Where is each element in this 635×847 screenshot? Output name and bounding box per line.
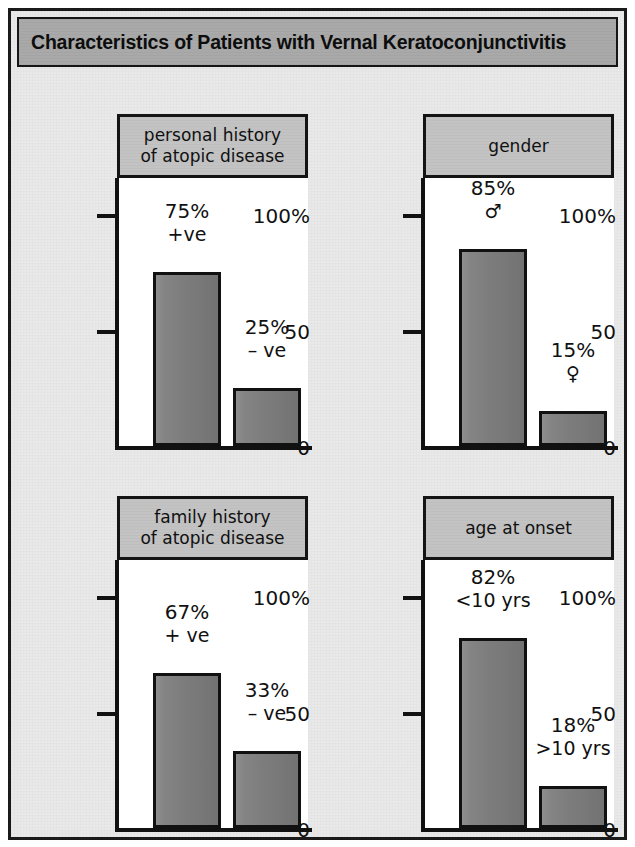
bar-value-label: 18% xyxy=(551,713,595,737)
chart-panel-age-at-onset: 100% 50 0 82% <10 yrs 18% >10 yrs xyxy=(317,455,623,837)
bar-category-label: – ve xyxy=(219,339,315,361)
bar-value-label: 15% xyxy=(551,338,595,362)
panel-header-age-at-onset: age at onset xyxy=(423,496,614,560)
y-tick-mark-50 xyxy=(97,712,116,716)
y-tick-mark-50 xyxy=(403,330,422,334)
bar-value-label: 67% xyxy=(165,600,209,624)
panel-header-family-history: family history of atopic disease xyxy=(117,496,308,560)
y-tick-mark-100 xyxy=(97,214,116,218)
bar-label-personal-history-positive: 75% +ve xyxy=(139,175,235,269)
x-axis-line xyxy=(421,446,618,450)
bar-label-personal-history-negative: 25% – ve xyxy=(219,291,315,385)
bar-value-label: 75% xyxy=(165,199,209,223)
bar-label-gender-female: 15% ♀ xyxy=(525,314,621,408)
male-symbol-icon: ♂ xyxy=(445,200,541,222)
bar-category-label: >10 yrs xyxy=(525,737,621,759)
panel-header-gender: gender xyxy=(423,114,614,178)
bar-category-label: +ve xyxy=(139,223,235,245)
bars-container: 82% <10 yrs 18% >10 yrs xyxy=(425,560,618,828)
bars-container: 67% + ve 33% – ve xyxy=(119,560,312,828)
x-axis-line xyxy=(421,828,618,832)
bar-age-over-10 xyxy=(539,786,607,828)
x-axis-line xyxy=(115,446,312,450)
bar-category-label: <10 yrs xyxy=(445,589,541,611)
panel-header-personal-history: personal history of atopic disease xyxy=(117,114,308,178)
bars-container: 75% +ve 25% – ve xyxy=(119,178,312,446)
figure-title-bar: Characteristics of Patients with Vernal … xyxy=(17,17,618,67)
bar-category-label: – ve xyxy=(219,702,315,724)
bar-age-under-10 xyxy=(459,638,527,828)
panel-grid: 100% 50 0 75% +ve 25% – ve persona xyxy=(11,73,624,837)
panel-title: family history of atopic disease xyxy=(140,507,284,549)
x-axis-line xyxy=(115,828,312,832)
bar-gender-female xyxy=(539,411,607,446)
y-tick-mark-100 xyxy=(97,596,116,600)
page-title: Characteristics of Patients with Vernal … xyxy=(31,31,566,54)
bars-container: 85% ♂ 15% ♀ xyxy=(425,178,618,446)
panel-title: gender xyxy=(488,136,548,157)
bar-personal-history-positive xyxy=(153,272,221,446)
bar-label-age-over-10: 18% >10 yrs xyxy=(525,689,621,783)
y-tick-mark-100 xyxy=(403,214,422,218)
bar-family-history-negative xyxy=(233,751,301,828)
panel-title: age at onset xyxy=(465,518,572,539)
female-symbol-icon: ♀ xyxy=(525,362,621,384)
bar-label-family-history-negative: 33% – ve xyxy=(219,654,315,748)
bar-family-history-positive xyxy=(153,673,221,828)
bar-value-label: 85% xyxy=(471,176,515,200)
bar-value-label: 33% xyxy=(245,678,289,702)
chart-panel-personal-history: 100% 50 0 75% +ve 25% – ve persona xyxy=(11,73,317,455)
bar-value-label: 25% xyxy=(245,315,289,339)
chart-panel-family-history: 100% 50 0 67% + ve 33% – ve family xyxy=(11,455,317,837)
chart-panel-gender: 100% 50 0 85% ♂ 15% ♀ gender xyxy=(317,73,623,455)
y-tick-mark-50 xyxy=(403,712,422,716)
bar-personal-history-negative xyxy=(233,388,301,446)
y-tick-mark-50 xyxy=(97,330,116,334)
bar-value-label: 82% xyxy=(471,565,515,589)
y-tick-mark-100 xyxy=(403,596,422,600)
bar-gender-male xyxy=(459,249,527,446)
panel-title: personal history of atopic disease xyxy=(140,125,284,167)
figure-frame: Characteristics of Patients with Vernal … xyxy=(8,8,627,840)
bar-category-label: + ve xyxy=(139,624,235,646)
